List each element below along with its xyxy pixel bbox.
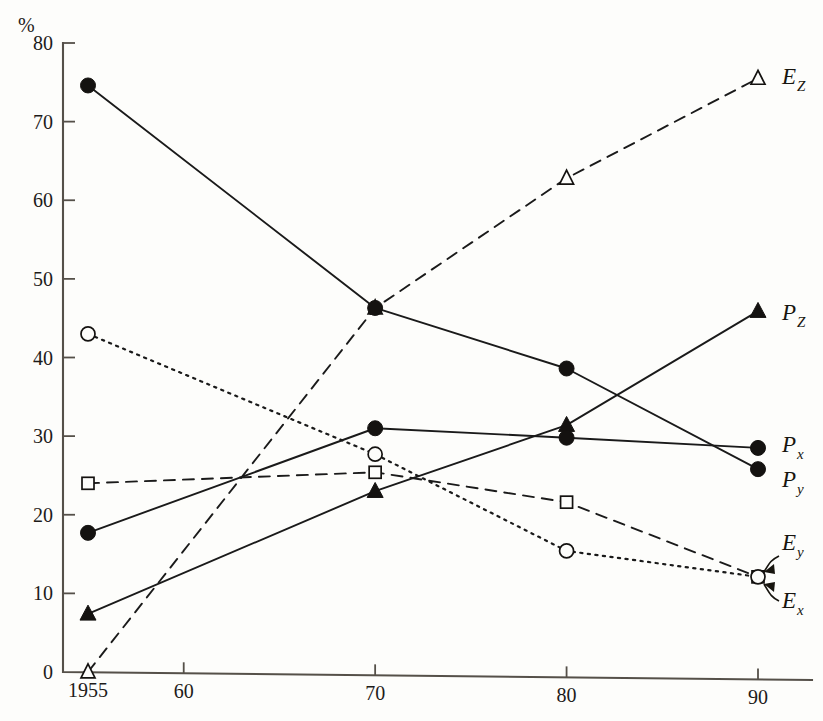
callout-annotations: EyEx xyxy=(764,530,804,618)
series-labels: EZPZPxPy xyxy=(781,64,806,497)
data-point-filled-circle xyxy=(559,430,574,445)
data-point-open-circle xyxy=(560,544,574,558)
data-point-open-triangle xyxy=(560,170,574,184)
x-axis-ticks: 195560708090 xyxy=(68,662,768,708)
data-point-open-circle xyxy=(368,447,382,461)
data-point-filled-circle xyxy=(368,300,383,315)
callout-label-subscript: y xyxy=(795,544,804,560)
series-label-subscript: Z xyxy=(797,314,806,330)
data-point-open-square xyxy=(82,477,94,489)
y-tick-label: 50 xyxy=(33,268,53,290)
callout-label-text: E xyxy=(781,530,796,555)
series-label-p-x: Px xyxy=(781,432,804,462)
data-point-filled-triangle xyxy=(559,416,575,431)
y-tick-label: 30 xyxy=(33,425,53,447)
x-tick-label: 80 xyxy=(557,684,577,706)
x-tick-label: 60 xyxy=(174,680,194,702)
series-label-p-z: PZ xyxy=(781,300,806,330)
data-point-open-circle xyxy=(81,327,95,341)
series-e-y xyxy=(82,466,764,583)
x-tick-label: 70 xyxy=(365,682,385,704)
y-axis-unit-label: % xyxy=(18,14,35,36)
series-label-e-z: EZ xyxy=(781,64,806,94)
series-p-z xyxy=(80,302,766,620)
callout-label-text: E xyxy=(781,588,796,613)
y-tick-label: 80 xyxy=(33,32,53,54)
line-chart-plot: 01020304050607080 195560708090 EZPZPxPy … xyxy=(0,0,823,721)
y-tick-label: 60 xyxy=(33,189,53,211)
y-tick-label: 0 xyxy=(43,661,53,683)
y-tick-label: 10 xyxy=(33,582,53,604)
y-tick-label: 70 xyxy=(33,111,53,133)
series-label-subscript: x xyxy=(796,446,804,462)
data-point-filled-circle xyxy=(368,421,383,436)
data-point-open-square xyxy=(561,496,573,508)
axes xyxy=(63,43,812,680)
callout-label-subscript: x xyxy=(796,602,804,618)
series-label-text: P xyxy=(781,300,796,325)
data-point-filled-circle xyxy=(81,525,96,540)
series-label-subscript: y xyxy=(795,481,804,497)
series-label-text: P xyxy=(781,467,796,492)
x-tick-label: 90 xyxy=(748,686,768,708)
data-point-filled-circle xyxy=(81,78,96,93)
data-series xyxy=(80,70,766,678)
data-point-filled-circle xyxy=(751,462,766,477)
series-label-subscript: Z xyxy=(797,78,806,94)
series-label-p-y: Py xyxy=(781,467,804,497)
series-label-text: P xyxy=(781,432,796,457)
callout-e-y: Ey xyxy=(764,530,804,574)
data-point-filled-circle xyxy=(751,440,766,455)
data-point-filled-triangle xyxy=(80,605,96,620)
data-point-open-circle xyxy=(751,570,765,584)
chart-container: 01020304050607080 195560708090 EZPZPxPy … xyxy=(0,0,823,721)
x-tick-label: 1955 xyxy=(68,679,108,701)
data-point-open-square xyxy=(369,466,381,478)
series-label-text: E xyxy=(781,64,796,89)
data-point-filled-triangle xyxy=(750,302,766,317)
series-e-x xyxy=(81,327,765,584)
series-e-z xyxy=(81,70,765,678)
y-axis-ticks: 01020304050607080 xyxy=(33,32,75,683)
callout-e-x: Ex xyxy=(764,582,804,618)
y-tick-label: 40 xyxy=(33,347,53,369)
series-p-y xyxy=(81,78,766,477)
y-tick-label: 20 xyxy=(33,504,53,526)
data-point-filled-circle xyxy=(559,361,574,376)
data-point-open-triangle xyxy=(751,70,765,84)
